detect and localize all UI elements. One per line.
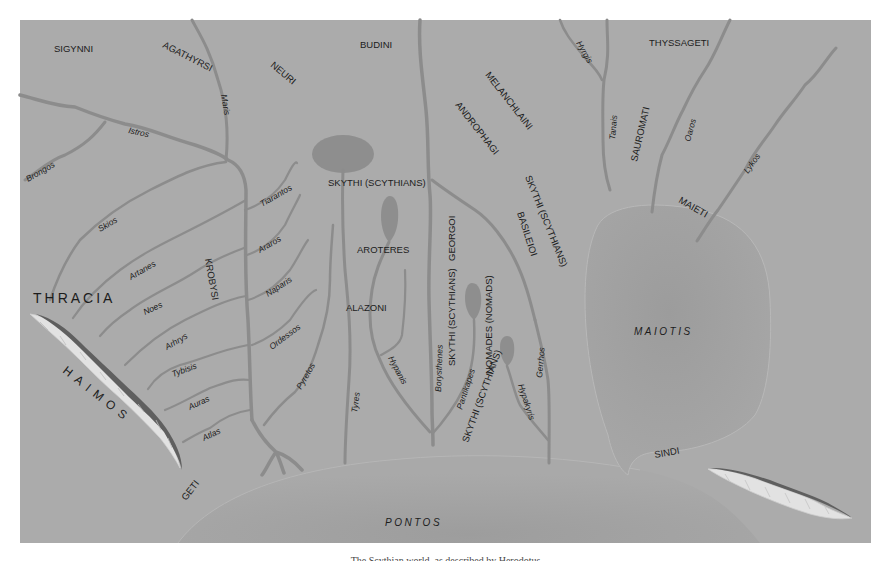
river-label-borysthenes: Borysthenes: [433, 344, 445, 392]
people-label-sigynni: SIGYNNI: [54, 43, 93, 54]
people-label-georgoi: GEORGOI: [446, 216, 457, 261]
region-label-thracia: THRACIA: [33, 290, 115, 306]
lake-tyres-source: [312, 135, 374, 173]
map-caption: The Scythian world, as described by Hero…: [0, 555, 891, 561]
people-label-skythi-top: SKYTHI (SCYTHIANS): [328, 177, 426, 188]
sea-label-maiotis: MAIOTIS: [634, 326, 693, 337]
people-label-alazoni: ALAZONI: [346, 302, 387, 313]
people-label-thyssageti: THYSSAGETI: [649, 37, 709, 48]
scythia-map: THRACIA HAIMOS PONTOS MAIOTIS SIGYNNI AG…: [0, 0, 891, 561]
people-label-budini: BUDINI: [360, 39, 392, 50]
people-label-aroteres: AROTERES: [357, 244, 409, 255]
people-label-skythi-georgoi: SKYTHI (SCYTHIANS): [446, 268, 457, 366]
sea-label-pontos: PONTOS: [385, 517, 442, 528]
